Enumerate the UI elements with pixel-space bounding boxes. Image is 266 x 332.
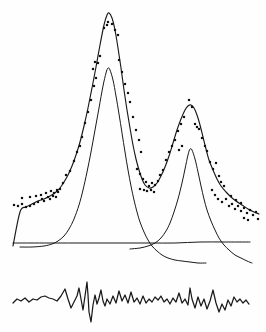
- data-point: [21, 203, 23, 205]
- data-point: [107, 21, 109, 23]
- data-point: [140, 151, 142, 153]
- data-point: [168, 151, 170, 153]
- data-point: [50, 190, 52, 192]
- data-point: [159, 174, 161, 176]
- data-point: [243, 217, 245, 219]
- data-point: [21, 197, 23, 199]
- data-point: [29, 196, 31, 198]
- data-point: [57, 191, 59, 193]
- data-point: [194, 123, 196, 125]
- data-point: [153, 191, 155, 193]
- data-point: [25, 206, 27, 208]
- data-point: [171, 145, 173, 147]
- data-point: [124, 83, 126, 85]
- data-point: [41, 198, 43, 200]
- data-point: [106, 24, 108, 26]
- data-point: [237, 205, 239, 207]
- data-point: [13, 204, 15, 206]
- data-point: [255, 211, 257, 213]
- data-point: [81, 136, 83, 138]
- data-point: [52, 195, 54, 197]
- data-point: [240, 210, 242, 212]
- data-point: [221, 201, 223, 203]
- data-point: [257, 218, 259, 220]
- data-point: [228, 205, 230, 207]
- data-point: [117, 34, 119, 36]
- data-point: [145, 181, 147, 183]
- data-point: [196, 126, 198, 128]
- data-point: [217, 198, 219, 200]
- data-point: [198, 128, 200, 130]
- data-point: [84, 122, 86, 124]
- data-point: [157, 180, 159, 182]
- data-point: [138, 139, 140, 141]
- data-point: [231, 203, 233, 205]
- data-point: [97, 62, 99, 64]
- data-point: [165, 159, 167, 161]
- data-point: [73, 160, 75, 162]
- spectrum-figure: [0, 0, 266, 332]
- data-point: [234, 208, 236, 210]
- data-point: [201, 137, 203, 139]
- data-point: [94, 61, 96, 63]
- data-point: [211, 189, 213, 191]
- data-point: [214, 194, 216, 196]
- data-point: [93, 85, 95, 87]
- data-point: [209, 161, 211, 163]
- data-point: [247, 219, 249, 221]
- data-point: [29, 205, 31, 207]
- data-point: [230, 195, 232, 197]
- data-point: [174, 139, 176, 141]
- data-point: [215, 162, 217, 164]
- data-point: [49, 198, 51, 200]
- data-point: [188, 99, 190, 101]
- data-point: [99, 55, 101, 57]
- data-point: [181, 145, 183, 147]
- data-point: [69, 170, 71, 172]
- data-point: [177, 130, 179, 132]
- data-point: [43, 200, 45, 202]
- data-point: [148, 185, 150, 187]
- data-point: [92, 68, 94, 70]
- data-point: [206, 150, 208, 152]
- data-point: [132, 116, 134, 118]
- data-point: [220, 181, 222, 183]
- data-point: [56, 189, 58, 191]
- data-point: [37, 201, 39, 203]
- data-point: [103, 27, 105, 29]
- data-point: [235, 199, 237, 201]
- data-point: [146, 190, 148, 192]
- data-point: [90, 99, 92, 101]
- data-point: [150, 189, 152, 191]
- plot-canvas: [0, 0, 266, 332]
- data-point: [136, 168, 138, 170]
- data-point: [87, 111, 89, 113]
- data-point: [55, 196, 57, 198]
- data-point: [118, 59, 120, 61]
- data-point: [151, 182, 153, 184]
- data-point: [40, 194, 42, 196]
- data-point: [218, 175, 220, 177]
- data-point: [45, 192, 47, 194]
- data-point: [243, 207, 245, 209]
- data-point: [121, 71, 123, 73]
- figure-background: [0, 0, 266, 332]
- data-point: [154, 184, 156, 186]
- data-point: [225, 198, 227, 200]
- data-point: [180, 123, 182, 125]
- data-point: [53, 192, 55, 194]
- data-point: [191, 106, 193, 108]
- data-point: [252, 214, 254, 216]
- data-point: [178, 149, 180, 151]
- data-point: [183, 116, 185, 118]
- data-point: [127, 92, 129, 94]
- data-point: [162, 169, 164, 171]
- data-point: [95, 77, 97, 79]
- data-point: [111, 23, 113, 25]
- data-point: [143, 189, 145, 191]
- data-point: [249, 209, 251, 211]
- data-point: [246, 212, 248, 214]
- data-point: [135, 129, 137, 131]
- data-point: [212, 168, 214, 170]
- data-point: [62, 182, 64, 184]
